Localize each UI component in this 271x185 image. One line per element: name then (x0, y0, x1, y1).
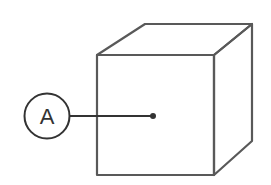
callout-label-text: A (40, 104, 55, 129)
callout-target-dot (150, 113, 156, 119)
callout-a: A (25, 94, 157, 139)
cube-right-face (214, 24, 252, 175)
cube (97, 24, 252, 175)
diagram-canvas: A (0, 0, 271, 185)
cube-diagram: A (0, 0, 271, 185)
cube-top-face (97, 24, 252, 55)
